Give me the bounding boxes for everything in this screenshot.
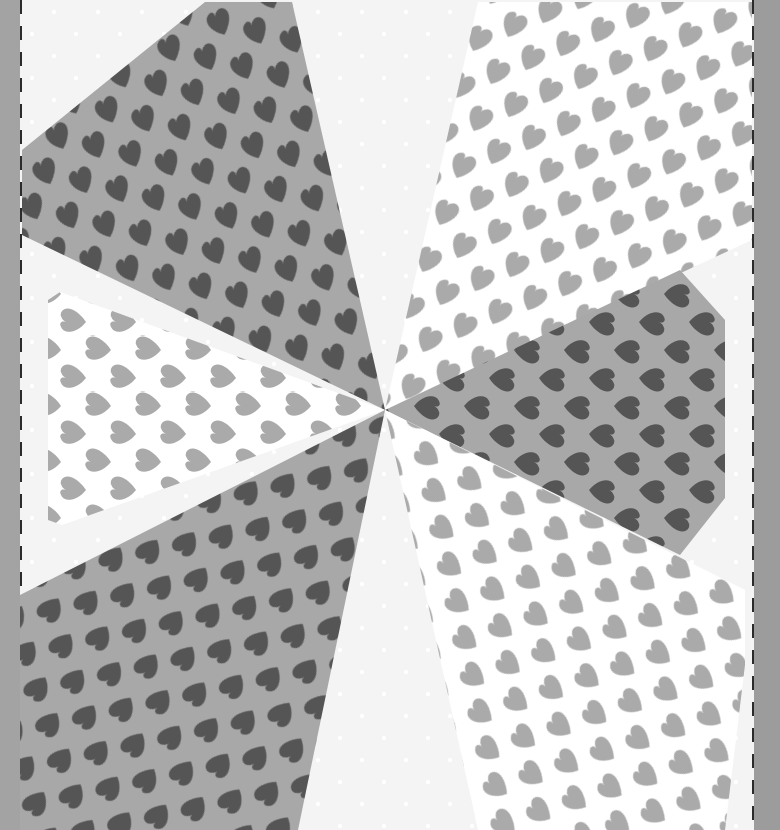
quilt-photo: Grayscale photo of a kaleidoscope/pinwhe… <box>0 0 780 830</box>
pinwheel-block <box>0 0 780 830</box>
